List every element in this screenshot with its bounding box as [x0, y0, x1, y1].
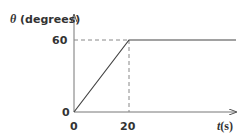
x-tick-0: 0 — [70, 120, 78, 133]
y-axis-label: θ (degrees) — [10, 12, 80, 26]
chart: θ (degrees) 60 0 0 20 t(s) — [0, 0, 250, 138]
theta-curve — [74, 40, 236, 112]
y-tick-0: 0 — [62, 106, 70, 119]
x-tick-20: 20 — [120, 120, 136, 133]
x-axis-label: t(s) — [217, 119, 233, 133]
y-tick-60: 60 — [52, 34, 68, 47]
